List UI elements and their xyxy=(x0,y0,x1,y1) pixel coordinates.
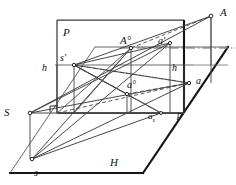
label-point-a: a xyxy=(196,76,201,86)
ray-s1-to-a1 xyxy=(74,43,170,65)
label-point-S: S xyxy=(4,107,10,118)
marker-point-s1 xyxy=(72,63,75,66)
ray-s-to-ax xyxy=(32,113,161,159)
light-rays-from-s-prime xyxy=(74,16,211,113)
label-point-A0: A° xyxy=(120,35,131,46)
marker-point-ax xyxy=(160,112,163,115)
ray-S-to-a xyxy=(30,83,189,113)
label-height-left: h xyxy=(42,63,47,73)
label-height-right: h xyxy=(172,63,177,73)
diagram-canvas: P H A A° a' a° a ax S s' s h h p xyxy=(0,0,236,185)
label-point-s-prime: s' xyxy=(60,53,66,63)
label-point-A: A xyxy=(220,7,227,18)
marker-point-a xyxy=(187,81,190,84)
base-diag-2 xyxy=(74,48,131,113)
geometry-drawing xyxy=(0,0,236,185)
ray-s1-to-A xyxy=(74,16,211,65)
ray-s-to-a xyxy=(32,83,189,159)
label-point-a0: a° xyxy=(127,80,136,90)
label-plane-P: P xyxy=(63,27,70,38)
label-point-ax: ax xyxy=(148,112,155,123)
label-ground-line-p: p xyxy=(177,110,182,120)
label-plane-H: H xyxy=(110,157,118,168)
label-point-a-prime: a' xyxy=(158,36,165,46)
marker-point-s xyxy=(30,157,34,161)
marker-point-A0 xyxy=(129,46,132,49)
marker-point-A xyxy=(209,14,213,18)
marker-point-S xyxy=(28,111,32,115)
marker-point-a0 xyxy=(125,92,128,95)
label-point-s: s xyxy=(34,168,38,178)
marker-point-a1 xyxy=(168,41,171,44)
